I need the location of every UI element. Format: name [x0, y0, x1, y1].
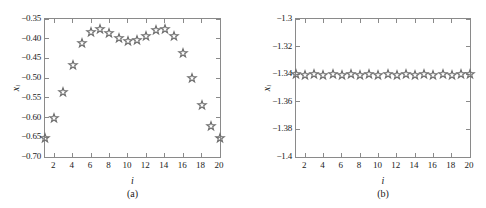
x-tick-label: 14	[410, 161, 419, 170]
data-point-star-icon	[151, 26, 160, 35]
data-point-star-icon	[133, 36, 142, 45]
data-point-star-icon	[105, 28, 114, 37]
x-tick-label: 6	[339, 161, 344, 170]
data-point-star-icon	[179, 48, 188, 57]
x-tick-label: 12	[391, 161, 400, 170]
x-tick-label: 18	[196, 161, 205, 170]
data-point-star-icon	[68, 61, 77, 70]
x-tick-mark	[341, 153, 342, 157]
data-point-star-icon	[420, 70, 429, 79]
data-point-star-icon	[346, 70, 355, 79]
x-tick-mark	[146, 19, 147, 23]
x-tick-label: 14	[159, 161, 168, 170]
x-tick-mark	[360, 19, 361, 23]
x-tick-mark	[415, 19, 416, 23]
plot-area-b	[295, 18, 471, 158]
x-tick-mark	[305, 19, 306, 23]
x-tick-mark	[164, 153, 165, 157]
x-tick-mark	[183, 153, 184, 157]
data-point-star-icon	[374, 70, 383, 79]
x-tick-mark	[183, 19, 184, 23]
x-tick-label: 2	[51, 161, 56, 170]
x-tick-mark	[109, 153, 110, 157]
data-point-star-icon	[310, 70, 319, 79]
y-tick-mark	[296, 129, 300, 130]
x-tick-mark	[201, 19, 202, 23]
data-point-star-icon	[319, 70, 328, 79]
x-axis-label-b: i	[295, 175, 471, 186]
x-tick-mark	[341, 19, 342, 23]
data-point-star-icon	[337, 70, 346, 79]
x-tick-label: 10	[373, 161, 382, 170]
x-tick-mark	[127, 153, 128, 157]
x-tick-mark	[220, 153, 221, 157]
y-tick-label: −0.60	[1, 112, 41, 121]
x-tick-label: 4	[69, 161, 74, 170]
x-tick-label: 20	[465, 161, 474, 170]
data-point-star-icon	[50, 113, 59, 122]
y-tick-mark	[296, 46, 300, 47]
y-tick-label: −0.50	[1, 73, 41, 82]
y-tick-label: −1.34	[244, 69, 292, 78]
y-tick-mark	[45, 19, 49, 20]
x-tick-mark	[451, 19, 452, 23]
data-point-star-icon	[456, 70, 465, 79]
y-tick-mark	[216, 78, 220, 79]
y-tick-mark	[296, 19, 300, 20]
data-point-star-icon	[188, 73, 197, 82]
y-tick-label: −0.40	[1, 33, 41, 42]
data-point-star-icon	[328, 70, 337, 79]
panel-a: xi i (a) −0.35−0.40−0.45−0.50−0.55−0.60−…	[0, 0, 243, 208]
x-tick-mark	[470, 19, 471, 23]
data-point-star-icon	[96, 24, 105, 33]
data-point-star-icon	[41, 134, 50, 143]
x-tick-mark	[220, 19, 221, 23]
data-point-star-icon	[160, 25, 169, 34]
y-tick-mark	[466, 46, 470, 47]
x-tick-mark	[72, 153, 73, 157]
x-tick-mark	[54, 153, 55, 157]
y-tick-mark	[296, 157, 300, 158]
y-tick-mark	[466, 101, 470, 102]
x-tick-label: 8	[357, 161, 362, 170]
data-point-star-icon	[392, 70, 401, 79]
x-tick-mark	[91, 19, 92, 23]
y-tick-mark	[216, 58, 220, 59]
x-tick-label: 10	[122, 161, 131, 170]
data-point-star-icon	[356, 70, 365, 79]
x-tick-mark	[201, 153, 202, 157]
data-point-star-icon	[142, 31, 151, 40]
data-point-star-icon	[77, 39, 86, 48]
x-tick-mark	[109, 19, 110, 23]
x-tick-mark	[433, 153, 434, 157]
y-tick-label: −1.32	[244, 41, 292, 50]
data-point-star-icon	[169, 32, 178, 41]
data-point-star-icon	[411, 70, 420, 79]
x-tick-mark	[451, 153, 452, 157]
data-point-star-icon	[59, 88, 68, 97]
panel-caption-a: (a)	[44, 188, 221, 199]
x-tick-mark	[305, 153, 306, 157]
data-point-star-icon	[365, 70, 374, 79]
y-tick-label: −1.38	[244, 124, 292, 133]
x-tick-mark	[396, 19, 397, 23]
x-tick-mark	[470, 153, 471, 157]
y-tick-label: −0.35	[1, 14, 41, 23]
y-tick-mark	[45, 97, 49, 98]
x-tick-mark	[433, 19, 434, 23]
x-tick-mark	[146, 153, 147, 157]
x-tick-label: 20	[215, 161, 224, 170]
y-tick-mark	[45, 58, 49, 59]
data-point-star-icon	[301, 70, 310, 79]
y-tick-label: −0.65	[1, 132, 41, 141]
y-tick-mark	[466, 74, 470, 75]
figure-two-panel-scatter: xi i (a) −0.35−0.40−0.45−0.50−0.55−0.60−…	[0, 0, 486, 208]
data-point-star-icon	[401, 70, 410, 79]
y-tick-label: −1.3	[244, 14, 292, 23]
y-tick-mark	[45, 157, 49, 158]
y-tick-label: −0.70	[1, 152, 41, 161]
y-tick-mark	[466, 129, 470, 130]
y-tick-mark	[216, 117, 220, 118]
x-tick-mark	[378, 19, 379, 23]
data-point-star-icon	[447, 70, 456, 79]
